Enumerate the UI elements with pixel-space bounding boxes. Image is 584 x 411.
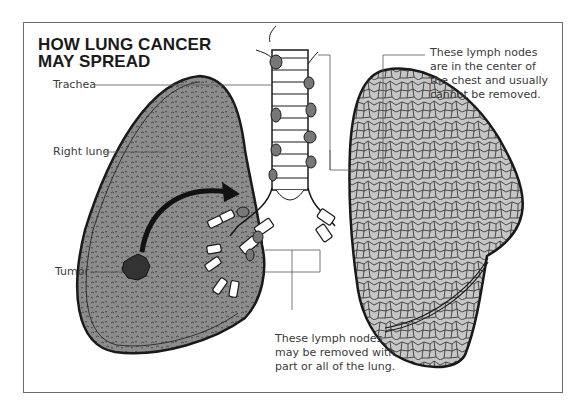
label-right-lung: Right lung	[53, 145, 109, 159]
label-trachea: Trachea	[53, 78, 96, 92]
right-lung	[77, 76, 264, 353]
diagram-title: HOW LUNG CANCER MAY SPREAD	[38, 36, 211, 70]
note-removable-lymph-nodes: These lymph nodes may be removed with pa…	[275, 332, 395, 374]
left-lung	[349, 69, 522, 367]
note-central-lymph-nodes: These lymph nodes are in the center of t…	[430, 46, 548, 102]
label-tumor: Tumor	[55, 265, 89, 279]
title-line-1: HOW LUNG CANCER	[38, 36, 211, 53]
title-line-2: MAY SPREAD	[38, 53, 211, 70]
